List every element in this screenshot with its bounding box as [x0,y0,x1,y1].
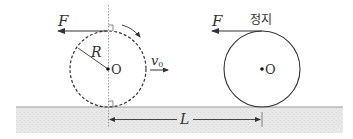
physics-diagram: F R O v0 F 정지 O L [0,0,353,139]
right-angle-marker-top [109,25,114,31]
center-label-right: O [265,62,276,77]
right-cylinder [212,31,300,107]
radius-label: R [90,44,102,60]
center-dot-left [106,67,110,71]
force-label-right: F [211,12,223,30]
center-label-left: O [111,62,122,77]
distance-label: L [179,111,189,127]
center-dot-right [260,67,264,71]
velocity-subscript: 0 [158,60,163,69]
velocity-label: v0 [151,53,163,69]
state-label: 정지 [250,13,272,27]
right-angle-marker-bottom [109,101,114,107]
force-label-left: F [57,12,69,30]
